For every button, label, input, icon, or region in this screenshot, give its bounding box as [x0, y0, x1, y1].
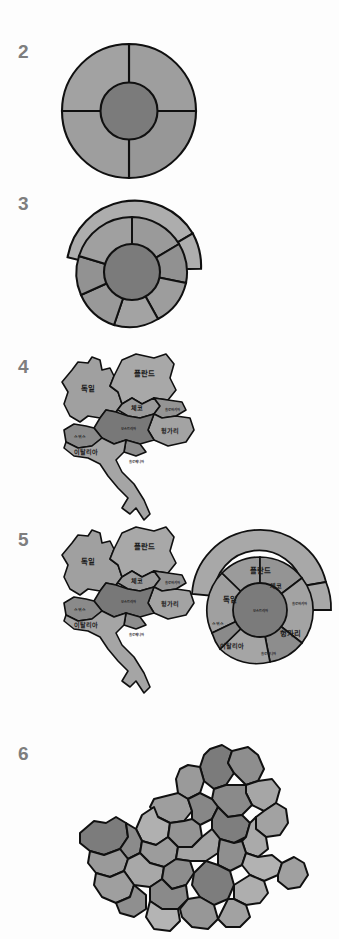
map4-label-austria: 오스트리아 [121, 426, 137, 431]
sunburst-label-germany: 독일 [223, 595, 237, 604]
map5-region-poland [110, 527, 176, 577]
map5-label-czech: 체코 [131, 577, 143, 585]
donut4-core [101, 83, 158, 140]
step-number-5: 5 [18, 530, 28, 549]
map4-label-slovenia: 슬로베니아 [129, 459, 145, 464]
sunburst-label-austria: 오스트리아 [253, 608, 269, 613]
sunburst-label-poland: 폴란드 [250, 566, 271, 575]
map5-label-slovenia: 슬로베니아 [129, 632, 145, 637]
map5-label-switzerland: 스위스 [74, 607, 86, 612]
map5-label-slovakia: 슬로바키아 [165, 580, 181, 585]
sunburst-label-italy: 이탈리아 [220, 642, 244, 650]
step-5-sunburst: 폴란드 독일 체코 슬로바키아 헝가리 슬로베니아 이탈리아 스위스 오스트리아 [186, 538, 338, 683]
step-6-district-map [42, 745, 332, 935]
map4-label-hungary: 헝가리 [161, 427, 179, 435]
district-19 [278, 857, 308, 889]
map5-label-italy: 이탈리아 [74, 621, 98, 629]
map4-label-germany: 독일 [81, 384, 95, 393]
map5-label-austria: 오스트리아 [121, 599, 137, 604]
map4-label-italy: 이탈리아 [74, 448, 98, 456]
step-number-6: 6 [18, 744, 28, 763]
map5-label-germany: 독일 [81, 557, 95, 566]
map5-label-hungary: 헝가리 [161, 600, 179, 608]
step-number-4: 4 [18, 357, 28, 376]
figure-root: 2 3 [0, 0, 339, 939]
donut7-core [104, 244, 160, 300]
sunburst-label-switzerland: 스위스 [212, 621, 224, 626]
step-number-3: 3 [18, 194, 28, 213]
step-3-donut [50, 190, 215, 355]
district-3 [228, 747, 264, 785]
map5-label-poland: 폴란드 [134, 542, 155, 551]
sunburst-label-czech: 체코 [270, 582, 282, 590]
sunburst-label-hungary: 헝가리 [280, 629, 301, 638]
step-number-2: 2 [18, 42, 28, 61]
step-4-map: 독일 폴란드 체코 슬로바키아 오스트리아 헝가리 슬로베니아 스위스 이탈리아 [44, 352, 224, 527]
map4-label-czech: 체코 [131, 404, 143, 412]
sunburst-label-slovenia: 슬로베니아 [261, 651, 277, 656]
map4-label-poland: 폴란드 [134, 369, 155, 378]
map4-label-slovakia: 슬로바키아 [165, 407, 181, 412]
map4-region-poland [110, 354, 176, 404]
sunburst-label-slovakia: 슬로바키아 [292, 601, 308, 606]
step-2-donut [54, 36, 204, 186]
district-1 [200, 745, 234, 789]
map4-label-switzerland: 스위스 [74, 434, 86, 439]
